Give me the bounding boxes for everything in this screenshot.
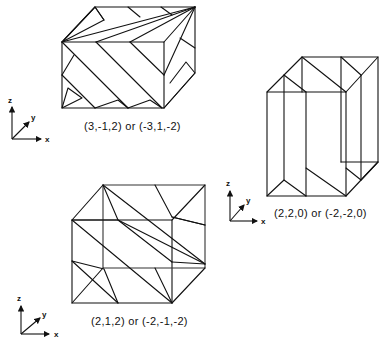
axis-z-label: z (8, 96, 12, 105)
figure-1-wireframe (62, 7, 195, 108)
figure-1-label: (3,-1,2) or (-3,1,-2) (84, 120, 181, 132)
axes-2-icon (230, 191, 257, 221)
crystal-planes-diagram (0, 0, 384, 347)
axes-1-icon (12, 107, 41, 139)
axis-y-label: y (31, 113, 35, 122)
axis-x-label: x (45, 135, 49, 144)
axis-y-label: y (42, 310, 46, 319)
axis-y-label: y (246, 196, 250, 205)
axis-x-label: x (54, 330, 58, 339)
axis-z-label: z (226, 179, 230, 188)
figure-3-wireframe (72, 185, 205, 303)
figure-2-wireframe (267, 57, 378, 196)
figure-3-label: (2,1,2) or (-2,-1,-2) (91, 315, 188, 327)
axis-z-label: z (17, 294, 21, 303)
axis-x-label: x (261, 217, 265, 226)
figure-2-label: (2,2,0) or (-2,-2,0) (274, 207, 367, 219)
